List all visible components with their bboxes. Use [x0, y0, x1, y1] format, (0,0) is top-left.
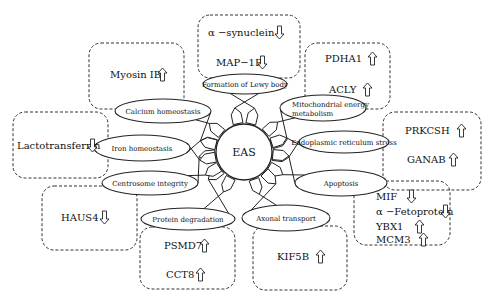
process-centrosome-integrity: Centrosome integrity	[102, 171, 198, 195]
pointer-icon	[270, 135, 287, 148]
protein-item: ACLY	[328, 83, 372, 96]
protein-item: α −synuclein	[208, 26, 284, 39]
up-arrow-icon	[196, 268, 205, 281]
hub: EAS	[216, 124, 272, 180]
process-label-line2: metabolism	[292, 110, 334, 118]
protein-item: KIF5B	[277, 250, 325, 263]
up-arrow-icon	[449, 153, 458, 166]
connector-line	[278, 118, 295, 122]
up-arrow-icon	[316, 250, 325, 263]
up-arrow-icon	[368, 52, 377, 65]
protein-label: CCT8	[166, 269, 194, 280]
protein-item: PDHA1	[325, 52, 377, 65]
pointer-icon	[200, 138, 217, 150]
process-protein-degradation: Protein degradation	[141, 208, 235, 230]
process-label: Apoptosis	[323, 180, 359, 188]
down-arrow-icon	[407, 190, 416, 203]
protein-label: MAP−1B	[216, 57, 262, 68]
up-arrow-icon	[415, 220, 424, 233]
process-axonal-transport: Axonal transport	[242, 205, 330, 231]
pointer-icon	[246, 108, 258, 125]
protein-item: α −Fetoprotein	[376, 205, 454, 218]
protein-label: HAUS4	[61, 212, 99, 223]
process-label: Iron homeostasis	[112, 145, 173, 153]
protein-item: Lactotransferrin	[17, 139, 101, 152]
process-calcium-homeostasis: Calcium homeostasis	[115, 99, 211, 123]
protein-label: GANAB	[407, 154, 446, 165]
diagram-svg: Formation of Lewy bodyMitochondrial ener…	[0, 0, 488, 302]
protein-label: α −synuclein	[208, 27, 275, 38]
down-arrow-icon	[275, 26, 284, 39]
pointer-icon	[231, 108, 243, 125]
protein-item: PRKCSH	[405, 124, 466, 137]
protein-item: MIF	[376, 190, 416, 203]
connector-line	[230, 93, 255, 108]
process-label: Formation of Lewy body	[202, 81, 288, 89]
protein-box-lewy	[198, 15, 300, 78]
up-arrow-icon	[457, 124, 466, 137]
process-apoptosis: Apoptosis	[295, 170, 387, 196]
up-arrow-icon	[363, 83, 372, 96]
protein-box-er	[383, 112, 481, 190]
protein-label: MCM3	[376, 234, 411, 245]
protein-item: PSMD7	[164, 239, 209, 252]
protein-label: Lactotransferrin	[17, 140, 101, 151]
protein-label: PDHA1	[325, 53, 362, 64]
connector-line	[259, 194, 276, 205]
protein-item: MCM3	[376, 233, 428, 246]
process-label: Axonal transport	[255, 215, 316, 223]
protein-label: Myosin IB	[110, 69, 161, 80]
process-label: Endoplasmic reticulum stress	[291, 139, 397, 147]
protein-item: HAUS4	[61, 211, 109, 224]
connector-line	[289, 156, 295, 184]
protein-label: MIF	[376, 191, 397, 202]
connector-line	[235, 93, 259, 108]
protein-label: α −Fetoprotein	[376, 206, 454, 217]
down-arrow-icon	[100, 211, 109, 224]
connector-line	[198, 156, 199, 183]
up-arrow-icon	[419, 233, 428, 246]
protein-item: GANAB	[407, 153, 458, 166]
process-label: Mitochondrial energy	[292, 101, 369, 109]
protein-label: YBX1	[375, 221, 403, 232]
protein-item: Myosin IB	[110, 68, 167, 81]
protein-label: KIF5B	[277, 251, 309, 262]
process-label: Centrosome integrity	[112, 180, 188, 188]
process-label: Calcium homeostasis	[125, 108, 200, 116]
protein-label: ACLY	[328, 84, 357, 95]
process-er-stress: Endoplasmic reticulum stress	[291, 131, 397, 153]
process-formation-lewy-body: Formation of Lewy body	[202, 74, 288, 94]
protein-item: CCT8	[166, 268, 205, 281]
pointer-icon	[249, 178, 262, 195]
process-label: Protein degradation	[152, 216, 224, 224]
process-mitochondrial-energy-metabolism: Mitochondrial energymetabolism	[280, 95, 369, 121]
protein-item: MAP−1B	[216, 56, 267, 69]
connector-line	[188, 175, 206, 176]
eas-diagram: Formation of Lewy bodyMitochondrial ener…	[0, 0, 488, 302]
hub-label: EAS	[232, 146, 256, 159]
protein-label: PRKCSH	[405, 125, 450, 136]
protein-label: PSMD7	[164, 240, 202, 251]
process-iron-homeostasis: Iron homeostasis	[94, 135, 190, 161]
protein-item: YBX1	[375, 220, 424, 233]
